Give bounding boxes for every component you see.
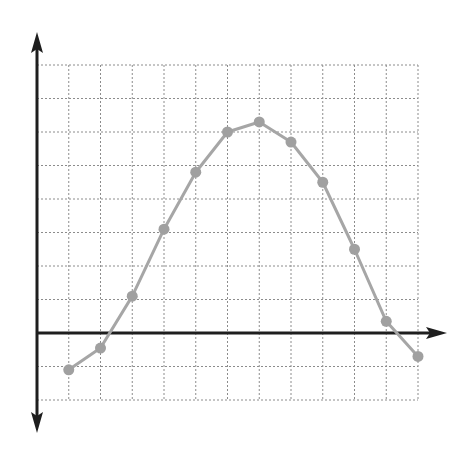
data-point [63, 364, 74, 375]
grid-lines [37, 65, 418, 400]
data-point [159, 224, 170, 235]
data-point [127, 291, 138, 302]
data-point [286, 137, 297, 148]
data-point [190, 167, 201, 178]
data-point [222, 127, 233, 138]
data-point [317, 177, 328, 188]
data-series [63, 116, 423, 375]
data-point [381, 316, 392, 327]
line-chart [0, 0, 473, 449]
data-point [349, 244, 360, 255]
data-point [413, 351, 424, 362]
data-point [95, 343, 106, 354]
data-point [254, 116, 265, 127]
